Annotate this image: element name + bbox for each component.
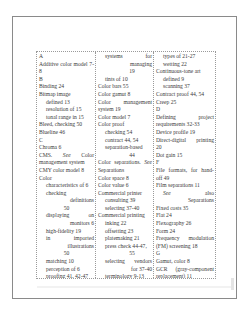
index-entry: Creep 25 <box>156 99 214 107</box>
index-entry: Chroma 6 <box>39 144 94 152</box>
index-entry-cont: system 19 <box>98 106 152 114</box>
index-subentry: tints of 10 <box>98 76 152 84</box>
index-subentry-cont: 55 <box>98 250 152 258</box>
index-subentry-cont: 50 <box>39 250 94 258</box>
index-letter-a: A <box>39 53 94 61</box>
index-entry: Film separations 11 <box>156 182 214 190</box>
index-subentry: contract 44, 54 <box>98 137 152 145</box>
index-subentry: defined 9 <box>156 76 214 84</box>
index-subentry: perception of 6 <box>39 266 94 274</box>
index-column-2: systems for managing 19 tints of 10 Colo… <box>95 52 153 278</box>
index-entry: Color model 7 <box>98 114 152 122</box>
index-entry-cont: management system <box>39 159 94 167</box>
index-entry: Color <box>39 175 94 183</box>
index-entry: Color management <box>98 99 152 107</box>
index-subentry: in imported <box>39 235 94 243</box>
index-subentry: high-fidelity 19 <box>39 228 94 236</box>
index-subentry-cont: monitors 6 <box>39 220 94 228</box>
index-entry: Gamut, color 8 <box>156 258 214 266</box>
index-entry: GCR (gray-component <box>156 266 214 274</box>
index-entry-cont: Separations <box>98 167 152 175</box>
index-entry: Contract proof 44, 54 <box>156 91 214 99</box>
index-entry: Device profile 19 <box>156 129 214 137</box>
index-subentry: press check 44-47, <box>98 243 152 251</box>
index-subentry: platemaking 21 <box>98 235 152 243</box>
index-subentry: displaying on <box>39 212 94 220</box>
index-entry: Additive color model 7- <box>39 61 94 69</box>
index-subentry: inking 22 <box>98 220 152 228</box>
index-entry: Direct-digital printing <box>156 137 214 145</box>
index-entry: Commercial printing <box>98 212 152 220</box>
index-subentry: proofing 41, 42-47 <box>39 273 94 278</box>
index-subentry: systems for <box>98 53 152 61</box>
index-entry: Color space 8 <box>98 175 152 183</box>
index-subentry: checking <box>39 190 94 198</box>
index-entry: Binding 24 <box>39 83 94 91</box>
index-subentry: separation-based <box>98 144 152 152</box>
index-subentry: terminology 9-13 <box>98 273 152 278</box>
index-subentry: matching 10 <box>39 258 94 266</box>
index-entry-cont: (FM) screening 18 <box>156 243 214 251</box>
index-entry: Defining project <box>156 114 214 122</box>
index-subentry-cont: illustrations <box>39 243 94 251</box>
index-entry: Continuous-tone art <box>156 68 214 76</box>
index-subentry: offsetting 23 <box>98 228 152 236</box>
index-entry: CMY color model 8 <box>39 167 94 175</box>
index-subentry-cont: 50 <box>39 205 94 213</box>
index-entry-cont: 20 <box>156 144 214 152</box>
index-subentry: selecting vendors <box>98 258 152 266</box>
index-subentry-cont: Separations <box>156 197 214 205</box>
index-entry: Bitmap image <box>39 91 94 99</box>
index-subentry: scanning 37 <box>156 83 214 91</box>
index-entry-cont: 8 <box>39 68 94 76</box>
index-letter-g: G <box>156 250 214 258</box>
index-entry: Dot gain 15 <box>156 152 214 160</box>
index-entry: Color separations. See <box>98 159 152 167</box>
index-entry: Fixed costs 35 <box>156 205 214 213</box>
index-subentry: checking 54 <box>98 129 152 137</box>
index-subentry-cont: for 37-40 <box>98 266 152 274</box>
index-table: A Additive color model 7- 8 B Binding 24… <box>36 51 216 279</box>
index-subentry-cont: 44 <box>98 152 152 160</box>
index-entry-cont: requirements 32-33 <box>156 121 214 129</box>
index-entry: Color gamut 8 <box>98 91 152 99</box>
index-entry: Color proof <box>98 121 152 129</box>
index-subentry: tonal range in 15 <box>39 114 94 122</box>
index-entry: CMS. See Color <box>39 152 94 160</box>
index-subentry: resolution of 15 <box>39 106 94 114</box>
index-entry: Color value 6 <box>98 182 152 190</box>
index-subentry: types of 21-27 <box>156 53 214 61</box>
index-subentry: wetting 22 <box>156 61 214 69</box>
index-entry: Bleed, checking 50 <box>39 121 94 129</box>
index-entry-cont: off 49 <box>156 175 214 183</box>
index-subentry-cont: managing <box>98 61 152 69</box>
index-subentry: defined 13 <box>39 99 94 107</box>
index-column-3: types of 21-27 wetting 22 Continuous-ton… <box>153 52 215 278</box>
index-entry: Flexography 26 <box>156 220 214 228</box>
index-entry: Blueline 46 <box>39 129 94 137</box>
index-entry: Flat 24 <box>156 212 214 220</box>
index-subentry: characteristics of 6 <box>39 182 94 190</box>
index-entry: Frequency modulation <box>156 235 214 243</box>
index-subentry-cont: definitions <box>39 197 94 205</box>
index-column-1: A Additive color model 7- 8 B Binding 24… <box>37 52 95 278</box>
index-entry: Commercial printer <box>98 190 152 198</box>
index-entry-cont: replacement) 11 <box>156 273 214 278</box>
index-subentry-cont: 19 <box>98 68 152 76</box>
page-shadow <box>37 286 232 288</box>
index-letter-b: B <box>39 76 94 84</box>
index-entry: Form 24 <box>156 228 214 236</box>
index-letter-d: D <box>156 106 214 114</box>
index-subentry: consulting 39 <box>98 197 152 205</box>
index-entry: File formats, for hand- <box>156 167 214 175</box>
index-letter-f: F <box>156 159 214 167</box>
index-subentry: selecting 37-40 <box>98 205 152 213</box>
index-subentry: See also <box>156 190 214 198</box>
index-letter-c: C <box>39 137 94 145</box>
index-entry: Color bars 55 <box>98 83 152 91</box>
page-edge-shade <box>231 278 234 290</box>
